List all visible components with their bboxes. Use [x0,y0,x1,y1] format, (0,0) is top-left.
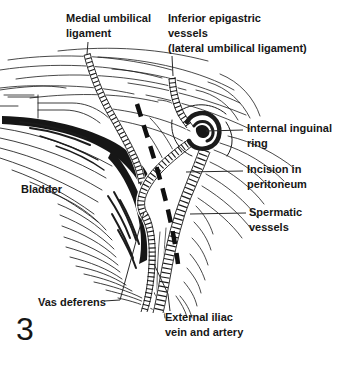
label-vas-deferens: Vas deferens [38,295,106,310]
anatomy-figure-page: Medial umbilical ligament Inferior epiga… [0,0,341,368]
label-spermatic-vessels: Spermatic vessels [249,205,302,235]
label-bladder: Bladder [21,182,62,197]
leader-inferior-epigastric [172,56,173,76]
leader-medial-umbilical [87,42,88,54]
bladder-art [0,95,154,310]
label-incision-in-peritoneum: Incision in peritoneum [247,162,307,192]
label-medial-umbilical-ligament: Medial umbilical ligament [66,11,151,41]
figure-number: 3 [16,312,34,346]
label-external-iliac-vein-artery: External iliac vein and artery [165,310,243,340]
label-inferior-epigastric-vessels: Inferior epigastric vessels (lateral umb… [168,11,307,56]
label-internal-inguinal-ring: Internal inguinal ring [247,121,332,151]
